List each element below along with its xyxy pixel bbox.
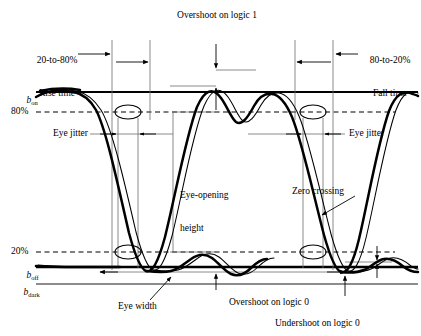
trace-thick-ring-low-left [36, 266, 120, 267]
overshoot-logic1-label: Overshoot on logic 1 [156, 10, 278, 21]
undershoot-logic0-label: Undershoot on logic 0 [275, 318, 411, 329]
b-on-label-sub: on [31, 99, 38, 106]
eye-opening-label-line1: Eye-opening [180, 190, 252, 201]
eye-jitter-right-label: Eye jitter [349, 128, 415, 139]
fall-time-label-line1: 80-to-20% [360, 55, 420, 66]
pct80-label: 80% [11, 106, 28, 116]
eye-opening-label-line2: height [180, 223, 252, 234]
rise-time-label-line1: 20-to-80% [22, 55, 92, 66]
eye-opening-height-label: Eye-opening height [180, 168, 252, 256]
zero-crossing-label: Zero crossing [292, 186, 382, 197]
b-dark-label: bdark [14, 277, 40, 307]
ellipse-20pct-left [115, 245, 141, 259]
eye-jitter-left-label: Eye jitter [18, 128, 88, 139]
fall-time-label: 80-to-20% Fall time [360, 33, 420, 121]
b-dark-label-sub: dark [28, 291, 40, 298]
eye-width-leader [150, 277, 171, 300]
eye-diagram-figure: 20-to-80% Rise time 80-to-20% Fall time … [0, 0, 421, 336]
zero-crossing-leader [322, 196, 355, 215]
ellipse-80pct-left [115, 105, 141, 119]
overshoot-logic0-label: Overshoot on logic 0 [229, 297, 353, 308]
eye-width-label: Eye width [118, 301, 184, 312]
fall-time-label-line2: Fall time [360, 88, 420, 99]
pct20-label: 20% [11, 246, 28, 256]
